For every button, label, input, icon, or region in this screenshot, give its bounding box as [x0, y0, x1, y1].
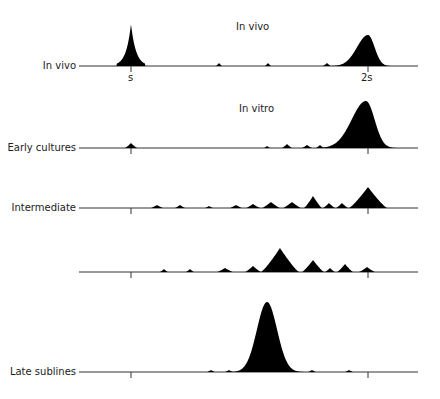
- distribution-peak: [259, 202, 282, 208]
- distribution-row: [79, 187, 418, 214]
- distribution-peak: [281, 144, 294, 148]
- distribution-peak: [301, 196, 324, 208]
- title-in-vivo: In vivo: [236, 21, 269, 32]
- distribution-peak: [215, 268, 236, 272]
- distribution-peak: [255, 248, 304, 272]
- tick-label-2s: 2s: [361, 72, 373, 83]
- title-in-vitro: In vitro: [239, 103, 274, 114]
- row-label-intermediate: Intermediate: [2, 202, 76, 213]
- distribution-peak: [224, 302, 310, 372]
- distribution-peak: [357, 267, 378, 272]
- distribution-peak: [332, 35, 404, 66]
- distribution-row: [79, 302, 418, 378]
- distribution-peak: [324, 268, 337, 272]
- distribution-peak: [319, 101, 413, 148]
- tick-label-s: s: [128, 72, 133, 83]
- distribution-peak: [123, 143, 139, 148]
- row-label-late-sublines: Late sublines: [2, 366, 76, 377]
- distribution-peak: [343, 187, 392, 208]
- distribution-peak: [243, 266, 264, 272]
- distribution-peak: [334, 203, 350, 208]
- row-label-early-cultures: Early cultures: [0, 142, 76, 153]
- row-label-in-vivo: In vivo: [2, 60, 76, 71]
- distribution-peak: [115, 25, 146, 66]
- distribution-peak: [335, 264, 356, 272]
- distribution-peak: [244, 204, 262, 208]
- distribution-row: [79, 248, 418, 278]
- distribution-peak: [280, 202, 303, 208]
- distribution-peak: [321, 203, 337, 208]
- distribution-peak: [299, 260, 328, 272]
